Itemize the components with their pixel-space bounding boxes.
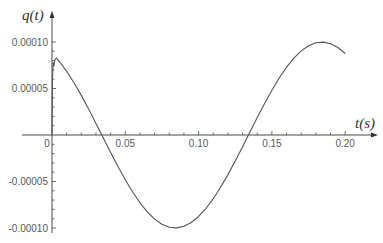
- line-chart: 00.050.100.150.200.000100.00005-0.00005-…: [0, 0, 383, 243]
- x-axis-arrow-icon: [371, 133, 378, 138]
- ticks: [52, 42, 345, 228]
- x-axis-label: t(s): [355, 115, 375, 132]
- y-tick-label: -0.00005: [9, 176, 49, 187]
- y-axis-label: q(t): [22, 7, 44, 24]
- x-tick-label: 0.05: [116, 138, 136, 149]
- y-axis-arrow-icon: [50, 11, 55, 18]
- x-tick-label: 0.10: [189, 138, 209, 149]
- axes: [22, 11, 378, 233]
- y-tick-label: -0.00010: [9, 223, 49, 234]
- y-tick-label: 0.00010: [12, 37, 49, 48]
- y-tick-label: 0.00005: [12, 83, 49, 94]
- x-tick-label: 0: [44, 138, 50, 149]
- x-tick-label: 0.20: [335, 138, 355, 149]
- x-tick-label: 0.15: [262, 138, 282, 149]
